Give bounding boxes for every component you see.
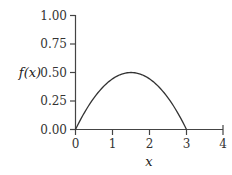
x-tick-label: 4 [219, 137, 227, 151]
x-axis-title: x [145, 154, 153, 169]
x-axis [75, 125, 223, 135]
y-axis-title: f(x) [18, 65, 41, 80]
y-tick-label: 0.75 [40, 37, 67, 51]
chart: 1.00 0.75 0.50 0.25 0.00 0 1 2 3 4 f(x) … [0, 0, 232, 175]
x-tick-label: 0 [72, 137, 80, 151]
y-tick-label: 0.00 [40, 123, 67, 137]
x-tick-labels: 0 1 2 3 4 [72, 137, 228, 151]
y-tick-label: 1.00 [40, 9, 67, 23]
x-tick-label: 2 [146, 137, 154, 151]
curve-f-x [76, 73, 187, 130]
x-tick-label: 3 [183, 137, 191, 151]
x-tick-label: 1 [109, 137, 117, 151]
y-axis [70, 15, 76, 130]
y-tick-label: 0.25 [40, 94, 67, 108]
y-tick-labels: 1.00 0.75 0.50 0.25 0.00 [40, 9, 67, 137]
y-tick-label: 0.50 [40, 66, 67, 80]
